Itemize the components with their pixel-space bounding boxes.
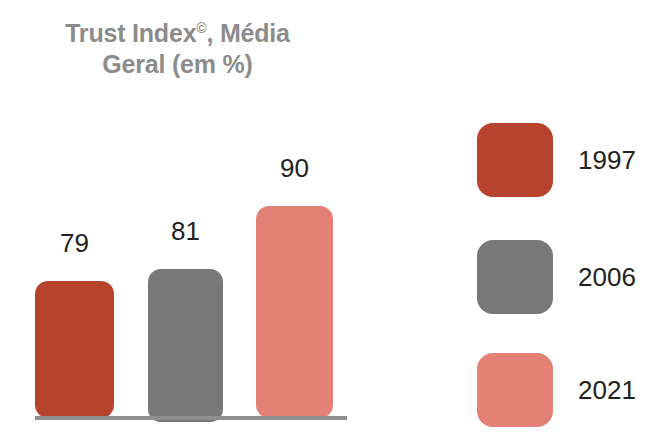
legend-label-2006: 2006 — [578, 262, 636, 292]
bar-2021 — [256, 206, 333, 418]
chart-legend: 1997 2006 2021 — [477, 0, 670, 432]
legend-swatch-1997 — [477, 123, 553, 197]
legend-label-1997: 1997 — [578, 145, 636, 175]
bar-value-label-1997: 79 — [35, 228, 114, 258]
legend-item-1997: 1997 — [477, 123, 670, 197]
bar-1997 — [35, 281, 114, 418]
axis-baseline — [35, 416, 347, 420]
legend-item-2021: 2021 — [477, 353, 670, 427]
bar-value-label-2021: 90 — [256, 153, 333, 183]
bar-2006 — [148, 269, 223, 422]
legend-swatch-2006 — [477, 240, 553, 314]
legend-label-2021: 2021 — [578, 375, 636, 405]
bar-value-label-2006: 81 — [148, 216, 223, 246]
legend-swatch-2021 — [477, 353, 553, 427]
legend-item-2006: 2006 — [477, 240, 670, 314]
bar-chart-plot-area: 79 81 90 — [0, 0, 400, 432]
